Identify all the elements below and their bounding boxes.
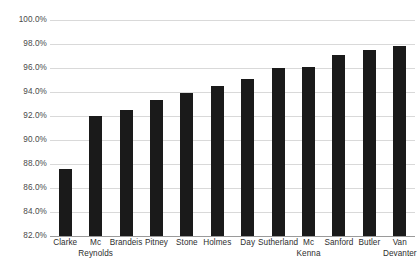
x-tick-label-line: Sanford: [324, 238, 353, 247]
x-tick-label: Clarke: [53, 238, 77, 249]
bar[interactable]: [241, 79, 254, 236]
x-tick-label-line: Devanter: [383, 249, 417, 260]
y-tick-label: 82.0%: [0, 232, 47, 240]
x-tick-label: Pitney: [145, 238, 168, 249]
x-tick-label-line: Mc: [90, 238, 101, 247]
x-tick-label: McKenna: [297, 238, 321, 259]
x-tick-label-line: Brandeis: [110, 238, 143, 247]
bar[interactable]: [393, 46, 406, 236]
x-tick-label: Holmes: [203, 238, 231, 249]
y-tick-label: 94.0%: [0, 88, 47, 96]
x-tick-label: Sutherland: [258, 238, 298, 249]
x-tick-label-line: Clarke: [53, 238, 77, 247]
y-tick-label: 84.0%: [0, 208, 47, 216]
x-tick-label-line: Stone: [176, 238, 198, 247]
y-tick-label: 92.0%: [0, 112, 47, 120]
bar[interactable]: [180, 93, 193, 236]
x-tick-label: Butler: [359, 238, 381, 249]
bar-chart: 100.0%98.0%96.0%94.0%92.0%90.0%88.0%86.0…: [0, 0, 420, 276]
y-tick-label: 96.0%: [0, 64, 47, 72]
bars-layer: [50, 20, 415, 236]
bar[interactable]: [332, 55, 345, 236]
x-tick-label-line: Kenna: [297, 249, 321, 260]
x-tick-label: VanDevanter: [383, 238, 417, 259]
x-tick-label: McReynolds: [78, 238, 113, 259]
bar[interactable]: [150, 100, 163, 236]
x-tick-label-line: Holmes: [203, 238, 231, 247]
bar[interactable]: [302, 67, 315, 236]
x-tick-label: Stone: [176, 238, 198, 249]
y-tick-label: 86.0%: [0, 184, 47, 192]
bar[interactable]: [59, 169, 72, 236]
x-tick-label-line: Day: [240, 238, 255, 247]
x-tick-label: Brandeis: [110, 238, 143, 249]
bar[interactable]: [211, 86, 224, 236]
bar[interactable]: [272, 68, 285, 236]
x-tick-label-line: Reynolds: [78, 249, 113, 260]
bar[interactable]: [89, 116, 102, 236]
y-tick-label: 88.0%: [0, 160, 47, 168]
y-axis: 100.0%98.0%96.0%94.0%92.0%90.0%88.0%86.0…: [0, 0, 47, 276]
bar[interactable]: [120, 110, 133, 236]
x-tick-label: Sanford: [324, 238, 353, 249]
y-tick-label: 98.0%: [0, 40, 47, 48]
x-tick-label: Day: [240, 238, 255, 249]
x-tick-label-line: Mc: [303, 238, 314, 247]
gridline: [50, 236, 415, 237]
x-tick-label-line: Van: [393, 238, 407, 247]
y-tick-label: 90.0%: [0, 136, 47, 144]
x-axis: ClarkeMcReynoldsBrandeisPitneyStoneHolme…: [50, 238, 415, 276]
y-tick-label: 100.0%: [0, 16, 47, 24]
x-tick-label-line: Pitney: [145, 238, 168, 247]
x-tick-label-line: Butler: [359, 238, 381, 247]
bar[interactable]: [363, 50, 376, 236]
x-tick-label-line: Sutherland: [258, 238, 298, 247]
